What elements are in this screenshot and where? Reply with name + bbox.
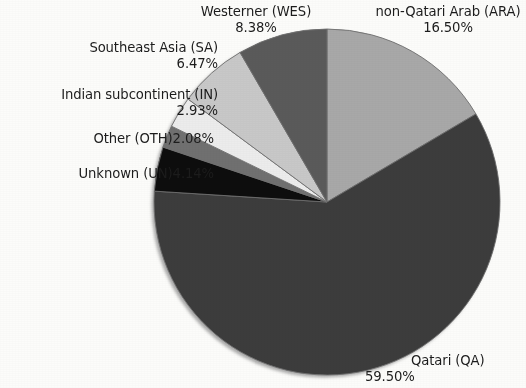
slice-label-un: Unknown (UN)4.14% (6, 166, 214, 182)
slice-label-ara-percent: 16.50% (370, 20, 526, 36)
slice-label-ara: non-Qatari Arab (ARA) 16.50% (370, 4, 526, 35)
slice-label-un-name: Unknown (UN) (79, 166, 173, 181)
slice-label-sa-percent: 6.47% (38, 56, 218, 72)
slice-label-qa-percent-row: 59.50% (365, 369, 475, 385)
slice-label-oth-percent: 2.08% (173, 131, 214, 146)
slice-label-qa-percent: 59.50% (365, 369, 415, 384)
slice-label-qa-name: Qatari (QA) (411, 353, 485, 368)
slice-label-in-name: Indian subcontinent (IN) (61, 87, 218, 102)
slice-label-qa: Qatari (QA) (411, 353, 526, 369)
slice-label-oth: Other (OTH)2.08% (18, 131, 214, 147)
slice-label-sa: Southeast Asia (SA) 6.47% (38, 40, 218, 71)
slice-label-wes-name: Westerner (WES) (201, 4, 311, 19)
pie-chart-figure: Westerner (WES) 8.38% non-Qatari Arab (A… (0, 0, 526, 388)
pie-slices-group (154, 29, 500, 375)
slice-label-wes-percent: 8.38% (178, 20, 334, 36)
slice-label-sa-name: Southeast Asia (SA) (89, 40, 218, 55)
slice-label-in: Indian subcontinent (IN) 2.93% (8, 87, 218, 118)
slice-label-ara-name: non-Qatari Arab (ARA) (376, 4, 521, 19)
slice-label-un-percent: 4.14% (173, 166, 214, 181)
slice-label-oth-name: Other (OTH) (93, 131, 172, 146)
slice-label-wes: Westerner (WES) 8.38% (178, 4, 334, 35)
slice-label-in-percent: 2.93% (8, 103, 218, 119)
